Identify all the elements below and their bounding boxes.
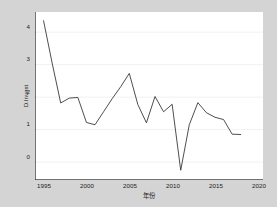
- y-axis-label: D.Invest: [22, 66, 29, 126]
- x-tick-label-2015: 2015: [209, 182, 223, 189]
- x-tick-label-2000: 2000: [80, 182, 94, 189]
- y-tick-label-2: 2: [16, 88, 30, 95]
- x-tick-label-2010: 2010: [166, 182, 180, 189]
- plot-area: [35, 12, 263, 180]
- x-tick-label-2005: 2005: [123, 182, 137, 189]
- gridlines: [35, 32, 263, 162]
- x-tick-label-1995: 1995: [37, 182, 51, 189]
- y-tick-label-3: 3: [16, 55, 30, 62]
- y-tick-label-4: 4: [16, 23, 30, 30]
- x-axis-label: 年份: [35, 191, 263, 200]
- chart-figure: D.Invest 4 3 2 1 0 1995 2000 2005 2010 2…: [0, 0, 277, 207]
- x-tick-label-2020: 2020: [252, 182, 266, 189]
- y-tick-label-0: 0: [16, 153, 30, 160]
- chart-canvas: [35, 12, 263, 180]
- y-tick-label-1: 1: [16, 120, 30, 127]
- data-series-line: [44, 21, 241, 170]
